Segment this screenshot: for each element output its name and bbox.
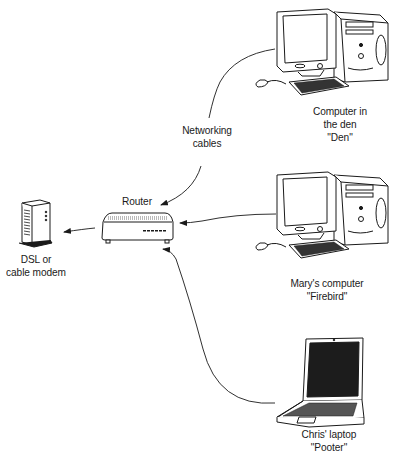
den-computer-icon — [256, 9, 388, 95]
cable-den-lower — [161, 166, 201, 205]
modem-label: DSL or cable modem — [4, 253, 67, 279]
cable-chris — [163, 249, 275, 403]
cable-router-to-modem — [64, 228, 95, 232]
chris-laptop-label: Chris' laptop "Pooter" — [289, 428, 368, 454]
marys-computer-label: Mary's computer "Firebird" — [279, 277, 376, 303]
router-icon — [102, 213, 173, 243]
network-diagram — [0, 0, 393, 456]
marys-computer-icon — [256, 172, 388, 258]
router-label: Router — [115, 195, 159, 208]
cable-marys — [180, 214, 276, 223]
laptop-icon — [277, 338, 364, 427]
networking-cables-label: Networking cables — [174, 124, 239, 150]
modem-icon — [19, 200, 52, 247]
den-computer-label: Computer in the den "Den" — [305, 105, 375, 144]
